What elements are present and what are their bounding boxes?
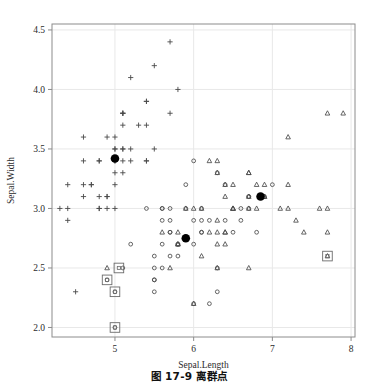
cluster-centers-group (111, 154, 265, 242)
marker-plus (152, 63, 157, 68)
marker-plus (104, 194, 109, 199)
marker-triangle (262, 182, 267, 186)
marker-plus (97, 158, 102, 163)
figure-caption: 图 17-9 离群点 (0, 368, 378, 383)
marker-plus (81, 182, 86, 187)
marker-triangle (223, 194, 228, 198)
marker-triangle (215, 230, 220, 234)
cluster-center (111, 154, 120, 163)
marker-circle (215, 290, 219, 294)
marker-triangle (215, 242, 220, 246)
marker-triangle (160, 230, 165, 234)
series-cluster-1 (57, 39, 180, 294)
marker-circle (255, 230, 259, 234)
marker-plus (144, 99, 149, 104)
y-axis-tick-label: 3.0 (33, 204, 45, 214)
marker-plus (65, 218, 70, 223)
x-axis-tick-label: 5 (113, 344, 118, 354)
marker-plus (120, 170, 125, 175)
marker-plus (128, 75, 133, 80)
x-axis-tick-label: 7 (270, 344, 275, 354)
marker-plus (175, 87, 180, 92)
outlier-highlight-box (102, 275, 112, 285)
marker-triangle (294, 218, 299, 222)
figure-container: 56782.02.53.03.54.04.5Sepal.LengthSepal.… (0, 0, 378, 392)
x-axis-tick-label: 8 (349, 344, 354, 354)
marker-plus (128, 146, 133, 151)
marker-plus (112, 134, 117, 139)
marker-plus (120, 158, 125, 163)
marker-triangle (223, 242, 228, 246)
marker-plus (65, 206, 70, 211)
marker-triangle (223, 230, 228, 234)
scatter-plot: 56782.02.53.03.54.04.5Sepal.LengthSepal.… (0, 0, 378, 392)
marker-triangle (199, 254, 204, 258)
marker-plus (144, 123, 149, 128)
marker-circle (239, 218, 243, 222)
cluster-center (181, 234, 190, 243)
marker-triangle (176, 230, 181, 234)
y-axis-tick-label: 4.0 (33, 85, 45, 95)
cluster-center (256, 192, 265, 201)
marker-triangle (223, 182, 228, 186)
gridlines (52, 24, 355, 337)
marker-triangle (215, 218, 220, 222)
marker-circle (176, 254, 180, 258)
y-axis-title: Sepal.Width (6, 157, 16, 204)
marker-triangle (325, 230, 330, 234)
marker-triangle (286, 182, 291, 186)
outliers-group (102, 251, 332, 332)
marker-plus (81, 158, 86, 163)
marker-triangle (207, 158, 212, 162)
marker-triangle (215, 158, 220, 162)
marker-circle (208, 302, 212, 306)
marker-triangle (286, 135, 291, 139)
marker-plus (120, 146, 125, 151)
marker-plus (120, 111, 125, 116)
marker-circle (152, 290, 156, 294)
marker-plus (97, 194, 102, 199)
marker-plus (112, 182, 117, 187)
marker-circle (223, 218, 227, 222)
marker-circle (200, 230, 204, 234)
marker-plus (112, 206, 117, 211)
marker-circle (208, 218, 212, 222)
marker-plus (89, 182, 94, 187)
marker-triangle (246, 170, 251, 174)
y-axis-tick-label: 2.0 (33, 323, 45, 333)
marker-plus (167, 111, 172, 116)
marker-circle (168, 218, 172, 222)
marker-triangle (325, 111, 330, 115)
marker-plus (136, 123, 141, 128)
marker-plus (128, 158, 133, 163)
marker-circle (160, 218, 164, 222)
marker-plus (104, 134, 109, 139)
y-axis-tick-label: 4.5 (33, 25, 45, 35)
marker-plus (57, 206, 62, 211)
marker-circle (160, 242, 164, 246)
marker-plus (81, 134, 86, 139)
marker-plus (120, 123, 125, 128)
marker-triangle (341, 111, 346, 115)
marker-plus (167, 39, 172, 44)
marker-plus (152, 146, 157, 151)
marker-circle (168, 254, 172, 258)
marker-circle (231, 230, 235, 234)
marker-circle (129, 242, 133, 246)
marker-circle (152, 278, 156, 282)
y-axis-tick-label: 2.5 (33, 263, 45, 273)
marker-triangle (207, 230, 212, 234)
series-cluster-2 (105, 159, 274, 329)
marker-circle (152, 254, 156, 258)
marker-plus (112, 146, 117, 151)
marker-triangle (176, 242, 181, 246)
marker-triangle (231, 182, 236, 186)
marker-circle (200, 218, 204, 222)
y-axis-tick-label: 3.5 (33, 144, 45, 154)
marker-triangle (254, 182, 259, 186)
marker-plus (144, 158, 149, 163)
x-axis-tick-label: 6 (191, 344, 196, 354)
marker-triangle (302, 230, 307, 234)
marker-plus (73, 289, 78, 294)
marker-plus (81, 194, 86, 199)
